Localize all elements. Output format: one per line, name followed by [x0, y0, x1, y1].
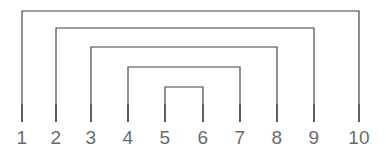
point-label-5: 5 [160, 128, 171, 147]
ticks-group [22, 104, 359, 122]
point-label-1: 1 [17, 128, 28, 147]
point-label-7: 7 [235, 128, 246, 147]
point-label-2: 2 [51, 128, 62, 147]
arc-4-7 [128, 67, 240, 122]
arc-5-6 [165, 87, 203, 122]
arc-2-9 [56, 28, 314, 122]
arc-3-8 [91, 47, 277, 122]
arcs-group [22, 11, 359, 122]
point-label-6: 6 [198, 128, 209, 147]
point-label-3: 3 [86, 128, 97, 147]
nested-arc-diagram: 12345678910 [0, 0, 385, 160]
point-label-8: 8 [272, 128, 283, 147]
point-label-4: 4 [123, 128, 134, 147]
point-label-10: 10 [348, 128, 370, 147]
point-label-9: 9 [309, 128, 320, 147]
